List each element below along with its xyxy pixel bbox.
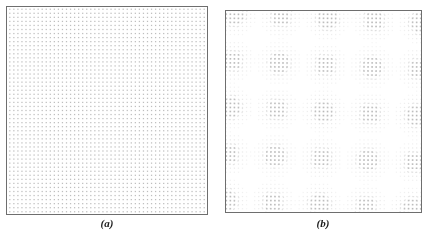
panel-b [225,10,422,213]
figure-root: (a) (b) [0,0,430,233]
panel-b-moire-pattern [226,11,421,212]
panel-a-label: (a) [94,218,120,229]
panel-a [6,6,208,215]
panel-a-dot-lattice [7,7,207,214]
panel-b-label: (b) [310,218,336,229]
